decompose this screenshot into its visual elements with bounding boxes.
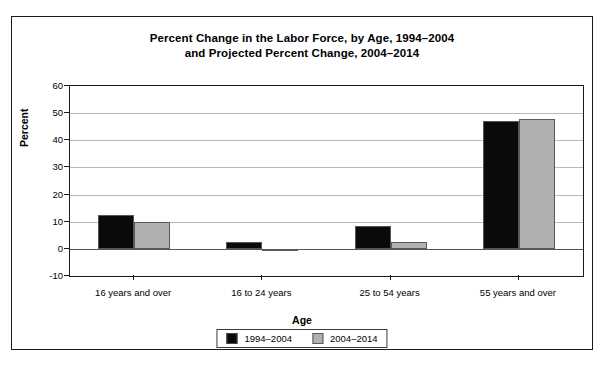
y-axis-tick-label: 20 [18,188,63,199]
chart-title-line-2: and Projected Percent Change, 2004–2014 [12,46,592,61]
y-axis-tick-label: -10 [18,270,63,281]
legend-item: 1994–2004 [226,333,292,344]
x-axis-tick-mark [390,275,391,280]
legend-item: 2004–2014 [312,333,378,344]
bar [391,242,427,249]
y-axis-tick-label: 50 [18,107,63,118]
y-axis-tick-label: 0 [18,242,63,253]
y-axis-tick-label: 40 [18,134,63,145]
x-axis-tick-mark [261,275,262,280]
y-axis-tick-label: 10 [18,215,63,226]
chart-figure-frame: Percent Change in the Labor Force, by Ag… [11,16,593,350]
bar [226,242,262,249]
chart-title: Percent Change in the Labor Force, by Ag… [12,31,592,61]
bar [483,121,519,249]
x-axis-tick-mark [133,275,134,280]
legend-label: 1994–2004 [244,333,292,344]
legend-swatch-icon [226,333,237,344]
chart-title-line-1: Percent Change in the Labor Force, by Ag… [12,31,592,46]
x-axis-tick-label: 16 years and over [95,287,171,298]
y-axis-tick-label: 60 [18,80,63,91]
x-axis-title: Age [12,314,592,326]
gridline [70,113,583,114]
legend-label: 2004–2014 [330,333,378,344]
x-axis-tick-label: 55 years and over [480,287,556,298]
x-axis-tick-label: 25 to 54 years [360,287,420,298]
bar [355,226,391,249]
legend-swatch-icon [312,333,323,344]
chart-legend: 1994–20042004–2014 [216,329,387,348]
x-axis-tick-label: 16 to 24 years [231,287,291,298]
bar [519,119,555,249]
bar [134,222,170,249]
plot-area [69,85,584,277]
bar [98,215,134,249]
zero-line [70,249,583,250]
x-axis-tick-mark [518,275,519,280]
bar [262,249,298,251]
y-axis-tick-label: 30 [18,161,63,172]
